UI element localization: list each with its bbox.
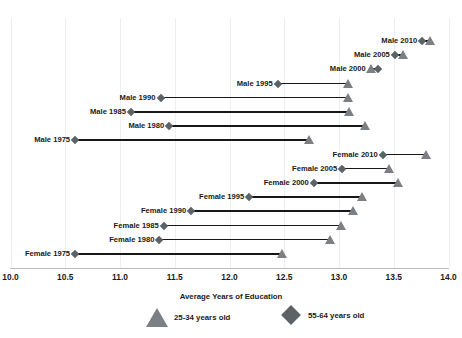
chart-row: Female 2000 [0, 176, 462, 190]
dumbbell-chart: Male 2010Male 2005Male 2000Male 1995Male… [0, 0, 462, 338]
row-label: Female 2010 [333, 148, 378, 162]
diamond-marker-old [165, 122, 173, 130]
x-tick-label: 13.0 [331, 272, 347, 282]
diamond-marker-old [273, 79, 281, 87]
triangle-marker-young [393, 178, 403, 187]
row-connector [169, 125, 365, 127]
diamond-marker-old [245, 193, 253, 201]
row-label: Male 1975 [34, 133, 70, 147]
diamond-marker-old [187, 207, 195, 215]
row-label: Male 1990 [120, 91, 156, 105]
x-tick-label: 10.5 [57, 272, 73, 282]
chart-row: Female 1975 [0, 247, 462, 261]
diamond-marker-old [338, 165, 346, 173]
chart-row: Male 2000 [0, 62, 462, 76]
chart-row: Male 2005 [0, 48, 462, 62]
chart-row: Female 1985 [0, 219, 462, 233]
diamond-marker-old [160, 221, 168, 229]
diamond-marker-old [310, 179, 318, 187]
row-label: Female 1985 [114, 219, 159, 233]
x-axis-ticks: 10.010.511.011.512.012.513.013.514.0 [0, 272, 462, 288]
triangle-marker-young [344, 107, 354, 116]
row-label: Male 1985 [90, 105, 126, 119]
chart-legend: 25-34 years old 55-64 years old [0, 308, 462, 336]
legend-label-young: 25-34 years old [174, 313, 230, 322]
row-connector [314, 182, 398, 184]
row-connector [159, 239, 330, 241]
triangle-icon [146, 308, 168, 327]
row-label: Female 1975 [25, 247, 70, 261]
triangle-marker-young [325, 235, 335, 244]
row-label: Female 2005 [292, 162, 337, 176]
chart-row: Male 1975 [0, 133, 462, 147]
row-label: Male 1995 [237, 77, 273, 91]
chart-row: Male 1980 [0, 119, 462, 133]
legend-label-old: 55-64 years old [308, 311, 364, 320]
row-connector [383, 154, 426, 156]
x-tick-label: 12.5 [276, 272, 292, 282]
x-tick-label: 11.0 [112, 272, 128, 282]
chart-row: Male 1990 [0, 91, 462, 105]
chart-row: Male 1985 [0, 105, 462, 119]
row-connector [191, 210, 353, 212]
row-connector [278, 83, 348, 85]
diamond-marker-old [156, 94, 164, 102]
row-label: Male 2000 [330, 62, 366, 76]
triangle-marker-young [357, 192, 367, 201]
triangle-marker-young [343, 79, 353, 88]
triangle-marker-young [343, 93, 353, 102]
x-tick-label: 12.0 [221, 272, 237, 282]
triangle-marker-young [421, 150, 431, 159]
x-axis-line [10, 268, 449, 269]
plot-area: Male 2010Male 2005Male 2000Male 1995Male… [0, 0, 462, 272]
triangle-marker-young [348, 206, 358, 215]
diamond-marker-old [71, 136, 79, 144]
x-tick-label: 13.5 [386, 272, 402, 282]
row-connector [249, 196, 362, 198]
diamond-marker-old [379, 150, 387, 158]
row-connector [342, 168, 389, 170]
diamond-marker-old [155, 236, 163, 244]
chart-row: Female 2005 [0, 162, 462, 176]
chart-row: Female 2010 [0, 148, 462, 162]
row-connector [131, 111, 349, 113]
row-connector [75, 253, 282, 255]
legend-item-old: 55-64 years old [332, 308, 364, 322]
chart-row: Male 2010 [0, 34, 462, 48]
triangle-marker-young [277, 249, 287, 258]
chart-row: Female 1995 [0, 190, 462, 204]
row-label: Female 1995 [199, 190, 244, 204]
triangle-marker-young [336, 221, 346, 230]
row-label: Male 2010 [381, 34, 417, 48]
chart-row: Female 1990 [0, 204, 462, 218]
x-tick-label: 10.0 [2, 272, 18, 282]
chart-row: Female 1980 [0, 233, 462, 247]
row-label: Female 2000 [264, 176, 309, 190]
diamond-marker-old [127, 108, 135, 116]
legend-item-young: 25-34 years old [198, 308, 230, 327]
diamond-marker-old [71, 250, 79, 258]
triangle-marker-young [304, 135, 314, 144]
row-connector [164, 225, 341, 227]
x-tick-label: 11.5 [167, 272, 183, 282]
x-tick-label: 14.0 [440, 272, 456, 282]
chart-row: Male 1995 [0, 77, 462, 91]
diamond-icon [281, 305, 301, 325]
row-label: Female 1990 [141, 204, 186, 218]
row-connector [161, 97, 348, 99]
row-connector [75, 139, 309, 141]
triangle-marker-young [360, 121, 370, 130]
row-label: Male 1980 [128, 119, 164, 133]
triangle-marker-young [384, 164, 394, 173]
x-axis-title: Average Years of Education [0, 292, 462, 301]
row-label: Male 2005 [354, 48, 390, 62]
row-label: Female 1980 [109, 233, 154, 247]
